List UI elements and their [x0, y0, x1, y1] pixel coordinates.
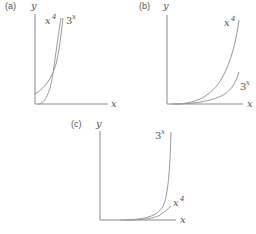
panel-b-label-3x: 3 x [240, 79, 250, 92]
svg-text:4: 4 [51, 13, 56, 21]
panel-b-y-label: y [162, 0, 169, 11]
panel-b-curve-3x [172, 72, 239, 104]
svg-text:x: x [224, 17, 230, 28]
panel-c-label-3x: 3 x [155, 128, 165, 141]
svg-text:4: 4 [179, 195, 184, 203]
svg-text:x: x [161, 128, 165, 136]
panel-c-x-label: x [180, 214, 186, 225]
panel-c-curve-3x [120, 132, 171, 220]
svg-text:x: x [45, 15, 51, 26]
panel-a-y-label: y [30, 0, 37, 11]
panel-a-label-3x: 3 x [66, 13, 76, 26]
panel-b-curve-x4 [175, 20, 239, 104]
panel-a-label: (a) [5, 1, 16, 11]
panel-c-y-label: y [95, 118, 102, 129]
svg-text:x: x [246, 79, 250, 87]
panel-c-label-x4: x 4 [173, 195, 184, 208]
panel-a-x-label: x [111, 98, 117, 109]
panel-a: (a) y x x 4 3 x [5, 0, 117, 109]
svg-text:4: 4 [230, 15, 235, 23]
panel-c: (c) y x 3 x x 4 [71, 118, 186, 225]
panel-a-curve-x4 [38, 18, 61, 104]
svg-text:x: x [72, 13, 76, 21]
panel-c-curve-x4 [125, 206, 171, 220]
panel-a-label-x4: x 4 [45, 13, 56, 26]
panel-b-label: (b) [139, 1, 150, 11]
panel-b-label-x4: x 4 [224, 15, 235, 28]
svg-text:x: x [173, 197, 179, 208]
figure-canvas: (a) y x x 4 3 x (b) y x x 4 3 [0, 0, 256, 234]
panel-c-label: (c) [71, 119, 82, 129]
panel-b-x-label: x [247, 98, 253, 109]
panel-b: (b) y x x 4 3 x [139, 0, 253, 109]
